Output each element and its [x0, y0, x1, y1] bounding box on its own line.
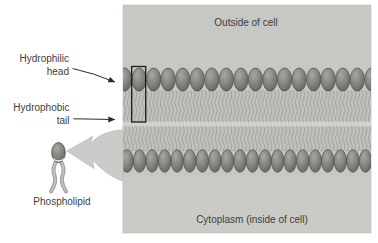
phospholipid-head [246, 150, 258, 173]
phospholipid-head [248, 68, 262, 91]
phospholipid-head [309, 150, 321, 173]
svg-text:head: head [47, 66, 69, 77]
phospholipid-head [277, 68, 291, 91]
phospholipid-head [117, 68, 131, 91]
phospholipid-head [336, 68, 350, 91]
phospholipid-tails [51, 163, 66, 192]
phospholipid-head [158, 150, 170, 173]
phospholipid-label: Phospholipid [33, 196, 90, 207]
cell-membrane-diagram: Outside of cell Cytoplasm (inside of cel… [0, 0, 378, 243]
phospholipid-head [234, 68, 248, 91]
phospholipid-head [132, 68, 146, 91]
cytoplasm-label: Cytoplasm (inside of cell) [196, 214, 308, 225]
hydrophobic-tail-arrow-icon [74, 119, 115, 120]
phospholipid-head [271, 150, 283, 173]
phospholipid-head [190, 68, 204, 91]
phospholipid-head [234, 150, 246, 173]
phospholipid-head [322, 150, 334, 173]
hydrophobic-tail-label: Hydrophobic tail [13, 102, 69, 127]
phospholipid-bilayer [117, 68, 378, 172]
phospholipid-head [184, 150, 196, 173]
phospholipid-head [176, 68, 190, 91]
diagram-canvas: Outside of cell Cytoplasm (inside of cel… [0, 0, 378, 243]
phospholipid-head [259, 150, 271, 173]
phospholipid-head [146, 150, 158, 173]
phospholipid-head [133, 150, 145, 173]
phospholipid-zoom-arrow-icon [67, 130, 123, 181]
phospholipid-head [263, 68, 277, 91]
phospholipid-head [334, 150, 346, 173]
phospholipid-head [219, 68, 233, 91]
phospholipid-head [292, 68, 306, 91]
phospholipid-head [171, 150, 183, 173]
phospholipid-head [284, 150, 296, 173]
phospholipid-head [147, 68, 161, 91]
phospholipid-head [321, 68, 335, 91]
hydrophilic-head-arrow-icon [73, 69, 115, 83]
bilayer-midline-gap [123, 122, 371, 127]
phospholipid-head [359, 150, 371, 173]
phospholipid-head [209, 150, 221, 173]
phospholipid-head [196, 150, 208, 173]
single-phospholipid [51, 143, 66, 192]
outside-of-cell-label: Outside of cell [214, 17, 277, 28]
svg-text:tail: tail [57, 115, 70, 126]
phospholipid-head [307, 68, 321, 91]
phospholipid-head [365, 68, 378, 91]
phospholipid-head [221, 150, 233, 173]
svg-text:Hydrophobic: Hydrophobic [13, 102, 69, 113]
phospholipid-head [297, 150, 309, 173]
hydrophilic-head-label: Hydrophilic head [20, 53, 69, 78]
phospholipid-head [347, 150, 359, 173]
phospholipid-head [205, 68, 219, 91]
phospholipid-head [161, 68, 175, 91]
svg-text:Hydrophilic: Hydrophilic [20, 53, 69, 64]
phospholipid-head [350, 68, 364, 91]
